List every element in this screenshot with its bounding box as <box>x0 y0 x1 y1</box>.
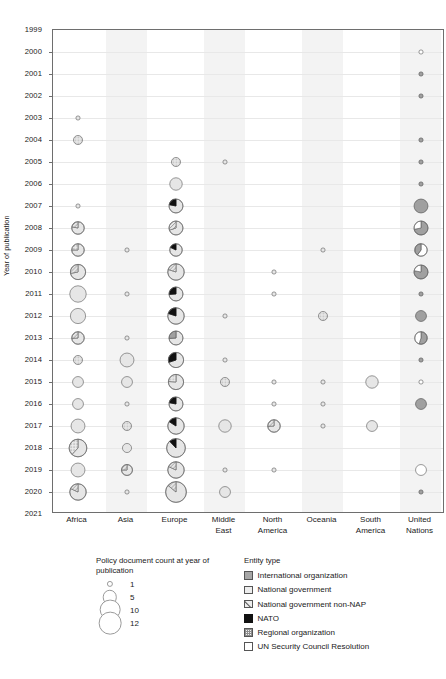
data-point-pie <box>265 418 281 434</box>
gridline <box>53 184 443 185</box>
data-point-pie <box>416 136 424 144</box>
entity-legend: Entity type International organizationNa… <box>244 556 444 654</box>
y-axis-tick-label: 2016 <box>25 399 42 408</box>
data-point-pie <box>217 485 232 500</box>
data-point-pie <box>122 246 130 254</box>
entity-legend-label: Regional organization <box>258 628 335 637</box>
data-point-pie <box>316 309 329 322</box>
x-axis-tick-label: Middle East <box>212 515 236 536</box>
data-point-pie <box>413 309 428 324</box>
data-point-pie <box>318 400 326 408</box>
data-point-pie <box>363 374 379 390</box>
data-point-pie <box>67 284 87 304</box>
y-axis-tick-label: 2005 <box>25 157 42 166</box>
data-point-pie <box>70 397 85 412</box>
data-point-pie <box>164 437 187 460</box>
y-axis-tick-label: 2001 <box>25 69 42 78</box>
y-axis-tick-label: 2006 <box>25 179 42 188</box>
data-point-pie <box>167 285 185 303</box>
data-point-pie <box>220 356 228 364</box>
data-point-pie <box>269 400 277 408</box>
y-axis-tick <box>49 338 53 339</box>
y-axis-tick-label: 2000 <box>25 47 42 56</box>
gridline <box>53 162 443 163</box>
y-axis-tick <box>49 118 53 119</box>
entity-legend-swatch <box>244 586 253 595</box>
entity-legend-row: International organization <box>244 569 444 583</box>
y-axis-tick-label: 2017 <box>25 421 42 430</box>
data-point-pie <box>216 418 232 434</box>
gridline <box>53 492 443 493</box>
data-point-pie <box>69 242 85 258</box>
y-axis-tick-label: 2014 <box>25 355 42 364</box>
gridline <box>53 360 443 361</box>
entity-legend-label: NATO <box>258 614 279 623</box>
entity-legend-row: UN Security Council Resolution <box>244 640 444 654</box>
data-point-pie <box>412 197 430 215</box>
gridline <box>53 140 443 141</box>
size-legend-title: Policy document count at year of publica… <box>96 556 246 575</box>
data-point-pie <box>69 417 87 435</box>
data-point-pie <box>218 375 231 388</box>
y-axis-tick-label: 2003 <box>25 113 42 122</box>
y-axis-tick <box>49 74 53 75</box>
entity-legend-row: NATO <box>244 611 444 625</box>
y-axis-tick-label: 2002 <box>25 91 42 100</box>
entity-legend-row: National government non-NAP <box>244 597 444 611</box>
size-legend-value: 12 <box>130 619 139 628</box>
data-point-pie <box>68 262 87 281</box>
gridline <box>53 382 443 383</box>
data-point-pie <box>122 488 130 496</box>
y-axis-tick <box>49 228 53 229</box>
data-point-pie <box>69 220 85 236</box>
gridline <box>53 404 443 405</box>
data-point-pie <box>416 378 424 386</box>
data-point-pie <box>413 397 428 412</box>
plot-area <box>52 29 444 513</box>
data-point-pie <box>165 306 185 326</box>
x-axis-tick-label: Asia <box>118 515 134 526</box>
data-point-pie <box>412 219 430 237</box>
data-point-pie <box>165 460 185 480</box>
y-axis-tick <box>49 52 53 53</box>
gridline <box>53 272 443 273</box>
column-band <box>106 30 147 512</box>
data-point-pie <box>67 437 89 459</box>
data-point-pie <box>416 180 424 188</box>
entity-legend-swatch <box>244 614 253 623</box>
gridline <box>53 96 443 97</box>
y-axis-tick <box>49 162 53 163</box>
y-axis-tick <box>49 470 53 471</box>
data-point-pie <box>416 290 424 298</box>
column-band <box>302 30 343 512</box>
entity-legend-row: Regional organization <box>244 625 444 639</box>
y-axis-tick-label: 2007 <box>25 201 42 210</box>
gridline <box>53 426 443 427</box>
y-axis-tick <box>49 382 53 383</box>
data-point-pie <box>416 92 424 100</box>
gridline <box>53 228 443 229</box>
x-axis-tick-label: Africa <box>66 515 86 526</box>
entity-legend-label: International organization <box>258 571 348 580</box>
data-point-pie <box>413 463 428 478</box>
x-axis-tick-label: Europe <box>162 515 188 526</box>
size-legend-value: 5 <box>130 593 134 602</box>
data-point-pie <box>120 441 133 454</box>
data-point-pie <box>119 375 134 390</box>
data-point-pie <box>118 351 136 369</box>
x-axis-tick-labels: AfricaAsiaEuropeMiddle EastNorth America… <box>52 515 444 545</box>
data-point-pie <box>416 70 424 78</box>
data-point-pie <box>122 400 130 408</box>
y-axis-tick-label: 2012 <box>25 311 42 320</box>
data-point-pie <box>120 419 133 432</box>
data-point-pie <box>412 330 428 346</box>
data-point-pie <box>220 466 228 474</box>
y-axis-tick <box>49 448 53 449</box>
size-legend-rows: 151012 <box>96 578 246 626</box>
data-point-pie <box>269 378 277 386</box>
data-point-pie <box>69 461 87 479</box>
gridline <box>53 74 443 75</box>
data-point-pie <box>69 330 85 346</box>
y-axis-tick <box>49 404 53 405</box>
size-legend-circle <box>107 581 113 587</box>
